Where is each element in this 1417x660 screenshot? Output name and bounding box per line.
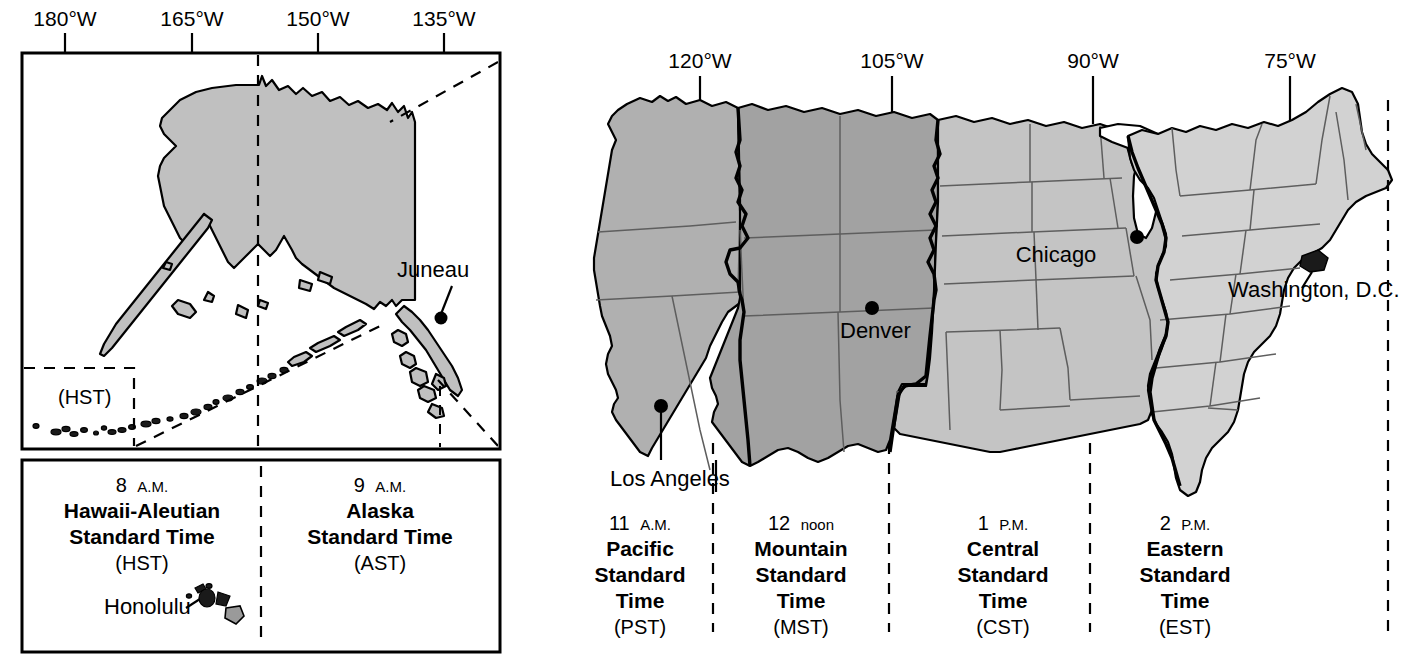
main-lon-label-2: 90°W (1067, 49, 1119, 72)
alaska-lon-label-3: 135°W (412, 7, 475, 30)
inset-legend-panel: 8 A.M. Hawaii-Aleutian Standard Time (HS… (22, 460, 500, 652)
juneau-label: Juneau (397, 257, 469, 282)
est-name-line2: Standard (1139, 563, 1230, 586)
alaska-inset-panel: 180°W 165°W 150°W 135°W (22, 7, 500, 449)
pst-name-line1: Pacific (606, 537, 674, 560)
alaska-lon-label-0: 180°W (33, 7, 96, 30)
main-lon-label-3: 75°W (1264, 49, 1316, 72)
legend-zone-est: 2 P.M. Eastern Standard Time (EST) (1139, 512, 1230, 638)
alaska-lon-label-1: 165°W (160, 7, 223, 30)
mst-time: 12 (768, 512, 790, 534)
maui-shape (216, 592, 230, 606)
mst-name-line1: Mountain (754, 537, 847, 560)
los-angeles-label: Los Angeles (610, 466, 730, 491)
est-name-line3: Time (1161, 589, 1210, 612)
cst-ampm: P.M. (999, 516, 1028, 533)
ast-ampm: A.M. (375, 478, 406, 495)
hawaii-big-island-shape (225, 606, 244, 624)
inset-callout-bottom (438, 380, 498, 446)
denver-label: Denver (840, 318, 911, 343)
pst-name-line3: Time (616, 589, 665, 612)
main-lon-label-1: 105°W (860, 49, 923, 72)
oahu-shape (199, 589, 215, 607)
legend-zone-mst: 12 noon Mountain Standard Time (MST) (754, 512, 847, 638)
cst-name-line3: Time (979, 589, 1028, 612)
hst-time-group: 8 A.M. (116, 474, 168, 496)
map-canvas: 180°W 165°W 150°W 135°W (0, 0, 1417, 660)
honolulu-label: Honolulu (104, 594, 191, 619)
alaska-peninsula (100, 214, 212, 356)
alaska-longitude-labels: 180°W 165°W 150°W 135°W (33, 7, 475, 53)
est-ampm: P.M. (1181, 516, 1210, 533)
pst-name-line2: Standard (594, 563, 685, 586)
hawaii-inset-group: Honolulu (104, 584, 244, 624)
hst-name-line1: Hawaii-Aleutian (64, 499, 220, 522)
hst-time: 8 (116, 474, 127, 496)
timezone-map-figure: 180°W 165°W 150°W 135°W (0, 0, 1417, 660)
hst-abbr: (HST) (115, 552, 168, 574)
ast-time-group: 9 A.M. (354, 474, 406, 496)
chicago-label: Chicago (1016, 242, 1097, 267)
est-time-group: 2 P.M. (1160, 512, 1210, 534)
cst-time: 1 (978, 512, 989, 534)
aleutian-islands-large (288, 320, 366, 366)
cst-abbr: (CST) (976, 616, 1029, 638)
mst-name-line3: Time (777, 589, 826, 612)
legend-zone-hst: 8 A.M. Hawaii-Aleutian Standard Time (HS… (64, 474, 220, 574)
mst-time-group: 12 noon (768, 512, 834, 534)
cst-name-line1: Central (967, 537, 1039, 560)
denver-dot (865, 301, 879, 315)
hst-ampm: A.M. (137, 478, 168, 495)
alaska-landmass (158, 76, 415, 309)
continental-us-map: 120°W 105°W 90°W 75°W (594, 49, 1400, 496)
legend-zone-cst: 1 P.M. Central Standard Time (CST) (957, 512, 1048, 638)
alaska-lon-label-2: 150°W (286, 7, 349, 30)
est-abbr: (EST) (1159, 616, 1211, 638)
pst-time-group: 11 A.M. (609, 512, 671, 534)
chicago-dot (1130, 230, 1144, 244)
ast-abbr: (AST) (354, 552, 406, 574)
mst-name-line2: Standard (755, 563, 846, 586)
ast-name-line1: Alaska (346, 499, 414, 522)
hst-name-line2: Standard Time (69, 525, 214, 548)
inset-callout-top (390, 62, 498, 122)
cst-name-line2: Standard (957, 563, 1048, 586)
cst-time-group: 1 P.M. (978, 512, 1028, 534)
main-lon-label-0: 120°W (668, 49, 731, 72)
est-time: 2 (1160, 512, 1171, 534)
pst-time: 11 (609, 512, 630, 534)
legend-zone-pst: 11 A.M. Pacific Standard Time (PST) (594, 512, 685, 638)
ast-name-line2: Standard Time (307, 525, 452, 548)
pst-abbr: (PST) (614, 616, 666, 638)
mst-ampm: noon (801, 516, 834, 533)
pst-ampm: A.M. (640, 516, 671, 533)
hst-inset-label: (HST) (58, 386, 111, 408)
mst-abbr: (MST) (773, 616, 829, 638)
est-name-line1: Eastern (1146, 537, 1223, 560)
washington-dc-label: Washington, D.C. (1228, 277, 1400, 302)
alaska-islands (163, 262, 332, 318)
ast-time: 9 (354, 474, 365, 496)
legend-zone-ast: 9 A.M. Alaska Standard Time (AST) (307, 474, 452, 574)
